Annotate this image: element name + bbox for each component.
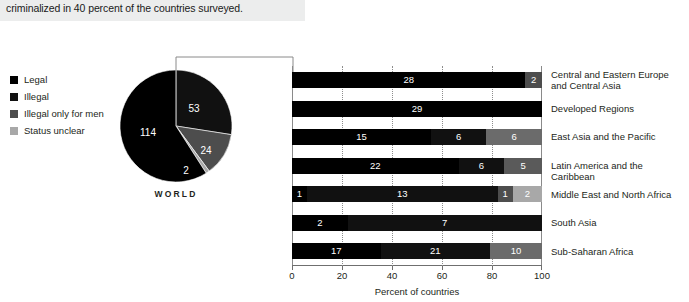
bar-segment-value: 2 — [525, 189, 530, 199]
category-label: Central and Eastern Europe and Central A… — [551, 69, 669, 92]
bar-segment-value: 22 — [370, 161, 381, 171]
legend-swatch-icon — [10, 110, 18, 118]
bar-segment: 29 — [292, 101, 542, 117]
bar-segment: 21 — [381, 243, 490, 259]
pie-slice-value: 53 — [188, 103, 199, 114]
legend-item-label: Illegal — [24, 92, 49, 102]
bar-segment: 2 — [292, 215, 348, 231]
x-axis-tick-label: 0 — [289, 270, 294, 281]
bar-row: 2265 — [292, 158, 542, 174]
pie-chart-title: WORLD — [120, 189, 232, 199]
bar-segment: 6 — [486, 129, 542, 145]
legend-swatch-icon — [10, 127, 18, 135]
bar-segment-value: 1 — [297, 189, 302, 199]
legend-item-label: Status unclear — [24, 126, 85, 136]
bar-segment-value: 2 — [317, 218, 322, 228]
bar-segment: 1 — [292, 186, 307, 202]
bar-segment-value: 10 — [511, 246, 522, 256]
bar-segment: 7 — [348, 215, 542, 231]
bar-row: 172110 — [292, 243, 542, 259]
bar-segment-value: 21 — [430, 246, 441, 256]
bar-segment-value: 7 — [442, 218, 447, 228]
bar-segment-value: 17 — [331, 246, 342, 256]
bar-row: 11312 — [292, 186, 542, 202]
category-label: Middle East and North Africa — [551, 189, 671, 201]
bar-segment-value: 28 — [403, 75, 414, 85]
legend-item-label: Illegal only for men — [24, 109, 104, 119]
bar-segment: 2 — [513, 186, 542, 202]
category-label: South Asia — [551, 217, 596, 229]
bar-segment: 17 — [292, 243, 381, 259]
bar-segment: 10 — [490, 243, 542, 259]
legend-item: Legal — [10, 72, 104, 88]
x-axis: Percent of countries 020406080100 — [292, 266, 542, 302]
bar-segment: 28 — [292, 72, 525, 88]
x-axis-tick-label: 60 — [437, 270, 448, 281]
bar-segment-value: 6 — [512, 132, 517, 142]
legend-swatch-icon — [10, 76, 18, 84]
category-labels: Central and Eastern Europe and Central A… — [551, 66, 689, 266]
category-label: East Asia and the Pacific — [551, 131, 656, 143]
pie-slice-value: 24 — [200, 145, 211, 156]
legend-swatch-icon — [10, 93, 18, 101]
bar-segment-value: 2 — [531, 75, 536, 85]
caption-text: criminalized in 40 percent of the countr… — [6, 2, 243, 15]
legend-item: Status unclear — [10, 123, 104, 139]
bar-row: 1566 — [292, 129, 542, 145]
bar-segment: 1 — [498, 186, 513, 202]
category-label: Sub-Saharan Africa — [551, 246, 633, 258]
caption-band: criminalized in 40 percent of the countr… — [0, 0, 305, 21]
bar-segment: 6 — [459, 158, 504, 174]
bar-chart: 28229156622651131227172110 — [292, 66, 542, 266]
bar-segment-value: 6 — [456, 132, 461, 142]
bar-segment-value: 15 — [356, 132, 367, 142]
pie-svg — [120, 70, 232, 182]
x-axis-tick-label: 100 — [534, 270, 550, 281]
bar-segment-value: 29 — [412, 104, 423, 114]
pie-slice-illegal — [176, 70, 232, 135]
bar-segment-value: 6 — [479, 161, 484, 171]
bar-segment: 15 — [292, 129, 431, 145]
bar-segment: 5 — [504, 158, 542, 174]
bar-segment: 13 — [307, 186, 498, 202]
bar-row: 29 — [292, 101, 542, 117]
bar-segment-value: 1 — [503, 189, 508, 199]
category-label: Developed Regions — [551, 103, 634, 115]
bar-segment-value: 5 — [520, 161, 525, 171]
category-label: Latin America and the Caribbean — [551, 160, 689, 183]
bar-row: 27 — [292, 215, 542, 231]
bar-segment: 6 — [431, 129, 487, 145]
bar-segment: 2 — [525, 72, 542, 88]
bar-segment-value: 13 — [397, 189, 408, 199]
pie-slice-value: 2 — [183, 165, 189, 176]
x-axis-tick-label: 40 — [387, 270, 398, 281]
x-axis-tick-label: 80 — [487, 270, 498, 281]
legend-item: Illegal only for men — [10, 106, 104, 122]
bar-row: 282 — [292, 72, 542, 88]
legend: LegalIllegalIllegal only for menStatus u… — [10, 72, 104, 140]
x-axis-tick-label: 20 — [337, 270, 348, 281]
bar-segment: 22 — [292, 158, 459, 174]
legend-item: Illegal — [10, 89, 104, 105]
chart-figure: criminalized in 40 percent of the countr… — [0, 0, 689, 302]
x-axis-title: Percent of countries — [292, 286, 542, 297]
pie-slice-value: 114 — [140, 127, 156, 138]
legend-item-label: Legal — [24, 75, 47, 85]
pie-chart: 53242114 — [120, 70, 232, 182]
